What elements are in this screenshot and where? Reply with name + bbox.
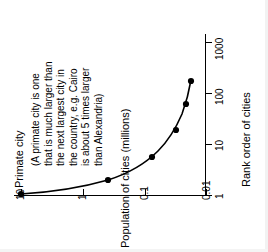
annotation-line-2: that is much larger than [43, 62, 56, 167]
rank-tick-1 [206, 195, 212, 196]
annotation-line-3: the next largest city in [55, 62, 68, 167]
annotation-block: (A primate city is one that is much larg… [30, 62, 106, 167]
population-axis-line [14, 195, 206, 196]
rank-tick-10 [206, 144, 212, 145]
rank-tick-100 [206, 93, 212, 94]
population-tick-label-1: 1 [77, 194, 88, 200]
annotation-line-4: the country, e.g. Cairo [68, 62, 81, 167]
population-tick-label-0.01: 0.01 [201, 181, 212, 200]
rank-axis-line [205, 34, 206, 196]
data-point-rank-3 [105, 177, 111, 183]
data-point-rank-6 [149, 154, 155, 160]
data-point-rank-45 [188, 78, 194, 84]
figure-root: 10 1 0.1 0.01 1 10 100 1000 Population o… [0, 0, 268, 252]
rank-axis-title: Rank order of cities [240, 92, 252, 187]
rank-tick-label-10: 10 [214, 140, 225, 151]
scan-edge-right [265, 0, 268, 252]
population-axis-title: Population of cities (millions) [119, 109, 131, 248]
annotation-line-6: than Alexandria) [93, 62, 106, 167]
annotation-line-1: (A primate city is one [30, 62, 43, 167]
annotation-line-5: is about 5 times larger [80, 62, 93, 167]
rank-tick-1000 [206, 42, 212, 43]
data-point-rank-24 [183, 101, 189, 107]
population-tick-label-10: 10 [15, 189, 26, 200]
primate-city-callout-text: Primate city [13, 131, 25, 188]
rank-tick-label-1: 1 [214, 193, 225, 199]
primate-city-callout: Primate city [13, 131, 25, 188]
data-point-rank-12 [173, 127, 179, 133]
population-tick-label-0.1: 0.1 [139, 186, 150, 200]
rank-tick-label-100: 100 [214, 88, 225, 105]
rank-tick-label-1000: 1000 [214, 38, 225, 60]
